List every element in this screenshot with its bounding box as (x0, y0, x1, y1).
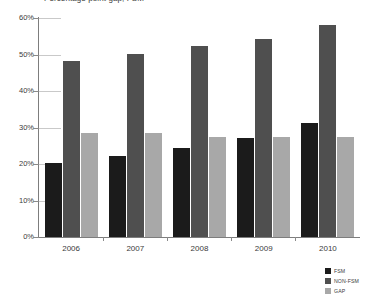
y-tick-label: 40% (8, 86, 34, 95)
y-tick-label: 10% (8, 196, 34, 205)
bar-gap-2008 (209, 137, 226, 237)
bar-non-fsm-2008 (191, 46, 208, 237)
bar-non-fsm-2010 (319, 25, 336, 237)
bar-group (103, 18, 167, 237)
legend-swatch-icon (325, 288, 331, 294)
legend-swatch-icon (325, 268, 331, 274)
x-tick-mark (39, 237, 103, 241)
x-tick-mark (232, 237, 296, 241)
y-tick-label: 50% (8, 50, 34, 59)
legend-label: GAP (334, 286, 345, 296)
x-axis-label-2010: 2010 (296, 243, 360, 255)
chart-title: Percentage point gap, FSM (44, 0, 344, 3)
y-tick-label: 0% (8, 232, 34, 241)
bar-group (296, 18, 360, 237)
bar-groups (39, 18, 360, 237)
x-axis-label-2006: 2006 (39, 243, 103, 255)
x-axis-labels: 20062007200820092010 (39, 243, 360, 255)
y-tick-label: 30% (8, 123, 34, 132)
bar-gap-2006 (81, 133, 98, 237)
bar-group (39, 18, 103, 237)
chart-legend: FSMNON-FSMGAP (325, 266, 370, 296)
bar-fsm-2009 (237, 138, 254, 237)
x-tick-mark (103, 237, 167, 241)
x-axis-label-2009: 2009 (232, 243, 296, 255)
bar-non-fsm-2009 (255, 39, 272, 237)
x-tick-mark (296, 237, 360, 241)
bar-fsm-2010 (301, 123, 318, 237)
bar-gap-2010 (337, 137, 354, 237)
bar-fsm-2008 (173, 148, 190, 237)
legend-item-gap[interactable]: GAP (325, 286, 370, 296)
bar-group (167, 18, 231, 237)
legend-label: FSM (334, 266, 345, 276)
bar-gap-2007 (145, 133, 162, 237)
legend-item-non-fsm[interactable]: NON-FSM (325, 276, 370, 286)
x-tick-mark (167, 237, 231, 241)
bar-non-fsm-2006 (63, 61, 80, 237)
x-axis-ticks (39, 237, 360, 241)
legend-item-fsm[interactable]: FSM (325, 266, 370, 276)
x-axis-label-2008: 2008 (167, 243, 231, 255)
bar-gap-2009 (273, 137, 290, 237)
x-axis-label-2007: 2007 (103, 243, 167, 255)
bar-non-fsm-2007 (127, 54, 144, 237)
legend-swatch-icon (325, 278, 331, 284)
bar-fsm-2006 (45, 163, 62, 237)
bar-fsm-2007 (109, 156, 126, 237)
legend-label: NON-FSM (334, 276, 359, 286)
bar-group (232, 18, 296, 237)
y-tick-label: 20% (8, 159, 34, 168)
bar-chart: Percentage point gap, FSM 60%50%40%30%20… (0, 0, 370, 302)
y-tick-label: 60% (8, 13, 34, 22)
